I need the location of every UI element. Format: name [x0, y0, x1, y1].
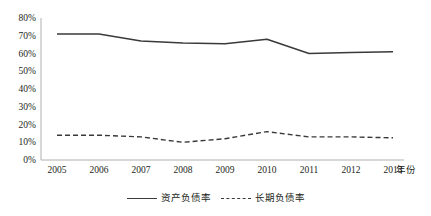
plot-area — [0, 0, 431, 216]
x-tick-label: 2006 — [90, 165, 109, 176]
x-tick-label: 2011 — [300, 165, 319, 176]
x-tick-label: 2005 — [48, 165, 67, 176]
series-line-longterm-liability — [57, 132, 393, 143]
x-tick-label: 2007 — [132, 165, 151, 176]
x-axis-title: 年份 — [396, 165, 416, 176]
x-tick-label: 2010 — [258, 165, 277, 176]
chart-legend: 资产负债率 长期负债率 — [0, 192, 431, 204]
x-tick-label: 2008 — [174, 165, 193, 176]
legend-swatch-dashed-icon — [221, 198, 251, 199]
axis-lines — [41, 18, 404, 160]
x-tick-label: 2012 — [342, 165, 361, 176]
legend-label-asset-liability: 资产负债率 — [161, 192, 211, 204]
legend-swatch-solid-icon — [127, 198, 157, 199]
legend-item-asset-liability: 资产负债率 — [127, 192, 211, 204]
line-chart: 0%10%20%30%40%50%60%70%80% 2005200620072… — [0, 0, 431, 216]
legend-label-longterm-liability: 长期负债率 — [255, 192, 305, 204]
x-tick-label: 2009 — [216, 165, 235, 176]
legend-item-longterm-liability: 长期负债率 — [221, 192, 305, 204]
series-line-asset-liability — [57, 34, 393, 54]
